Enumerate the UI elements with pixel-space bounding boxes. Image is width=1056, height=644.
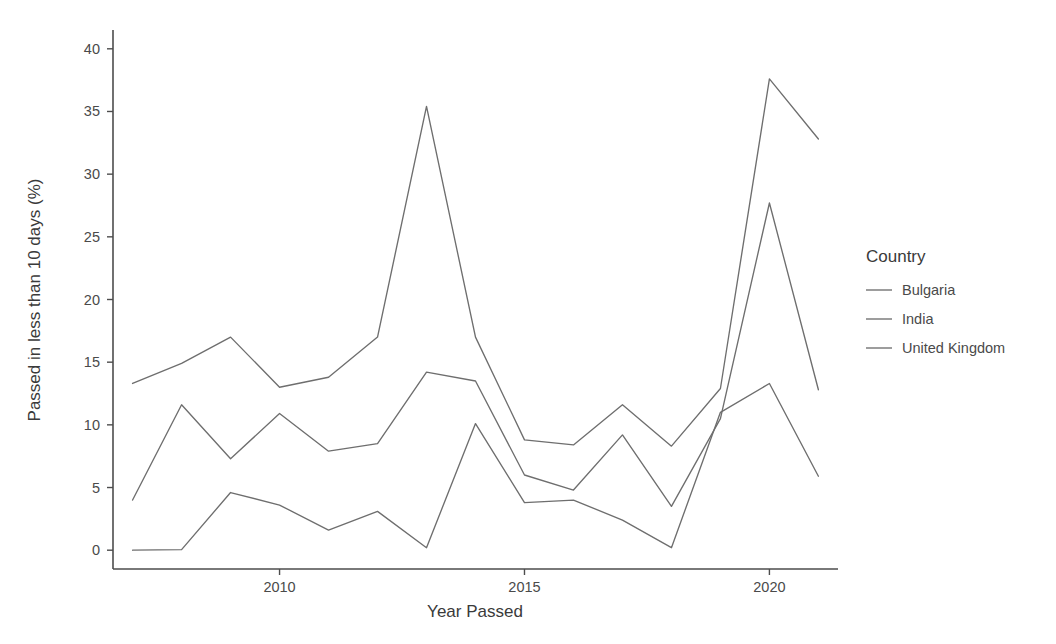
y-tick-label: 15 [84,354,100,370]
y-tick-label: 0 [92,542,100,558]
y-tick-label: 30 [84,166,100,182]
y-tick-label: 5 [92,480,100,496]
y-tick-label: 35 [84,103,100,119]
y-tick-label: 20 [84,292,100,308]
y-axis-title: Passed in less than 10 days (%) [25,179,44,422]
chart-background [0,0,1056,644]
legend-item-label: United Kingdom [902,340,1005,356]
y-tick-label: 40 [84,41,100,57]
y-tick-label: 10 [84,417,100,433]
legend-item-label: Bulgaria [902,282,956,298]
x-axis-title: Year Passed [427,602,523,621]
line-chart-figure: 0510152025303540 201020152020 Year Passe… [0,0,1056,644]
x-tick-label: 2020 [753,579,785,595]
y-tick-label: 25 [84,229,100,245]
legend-title: Country [866,247,926,266]
legend-item-label: India [902,311,934,327]
x-tick-label: 2015 [508,579,540,595]
x-tick-label: 2010 [263,579,295,595]
